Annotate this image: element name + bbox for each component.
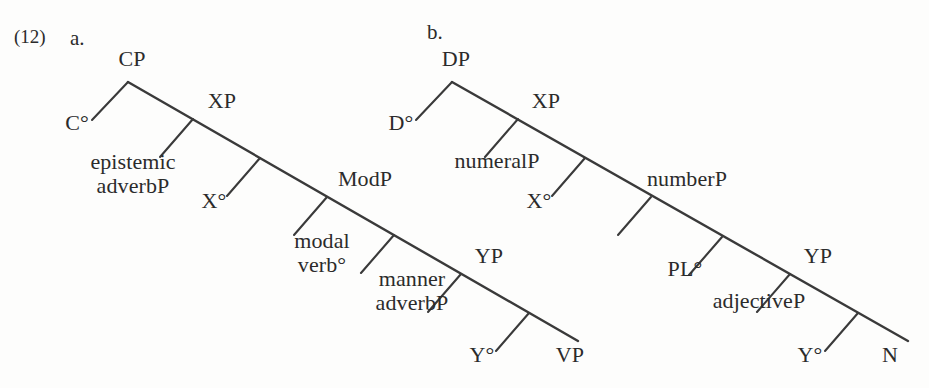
spine-b (452, 82, 908, 341)
branch-b-yp-to-terminal (825, 313, 858, 351)
node-a-manner-adverbp: manner adverbP (347, 267, 477, 315)
node-a-c-head: C° (65, 112, 89, 135)
example-number: (12) (14, 26, 46, 48)
node-a-yp: YP (475, 245, 503, 268)
branch-a-cp-to-c (92, 82, 128, 120)
node-a-manner-adverbp-line1: manner (379, 266, 446, 291)
node-b-yp: YP (804, 245, 832, 268)
node-b-y-head: Y° (798, 344, 823, 367)
branch-b-xp-to-x-head (552, 158, 585, 196)
node-a-epistemic-adverbp-line1: epistemic (90, 149, 175, 174)
node-a-xp: XP (208, 90, 236, 113)
node-b-xp: XP (532, 90, 560, 113)
node-b-numberp: numberP (647, 168, 727, 191)
node-a-modal-verb-line2: verb° (298, 252, 346, 277)
tree-a-sub-label: a. (70, 26, 85, 51)
node-a-epistemic-adverbp: epistemic adverbP (63, 150, 203, 198)
branch-b-dp-to-d (416, 82, 452, 120)
node-b-d-head: D° (389, 112, 414, 135)
node-a-vp: VP (556, 344, 584, 367)
node-a-epistemic-adverbp-line2: adverbP (97, 173, 170, 198)
node-b-pl-head: PL° (668, 258, 703, 281)
branch-a-yp-to-terminal (496, 313, 529, 351)
node-a-cp: CP (118, 48, 145, 71)
node-b-x-head: X° (527, 190, 552, 213)
branch-a-xp-to-x-head (227, 158, 260, 196)
figure-canvas: (12) a. CP C° epistemic adverbP XP X° mo… (0, 0, 929, 388)
node-b-n: N (882, 344, 898, 367)
node-a-x-head: X° (202, 190, 227, 213)
node-b-dp: DP (442, 48, 470, 71)
node-a-manner-adverbp-line2: adverbP (376, 290, 449, 315)
node-a-modal-verb-line1: modal (294, 228, 350, 253)
node-b-numeralp: numeralP (454, 150, 539, 173)
node-a-modp: ModP (338, 168, 392, 191)
branch-b-numberp-to-pl-head (618, 197, 651, 235)
node-a-y-head: Y° (470, 344, 495, 367)
node-b-adjectivep: adjectiveP (713, 290, 806, 313)
tree-b-sub-label: b. (427, 20, 443, 45)
